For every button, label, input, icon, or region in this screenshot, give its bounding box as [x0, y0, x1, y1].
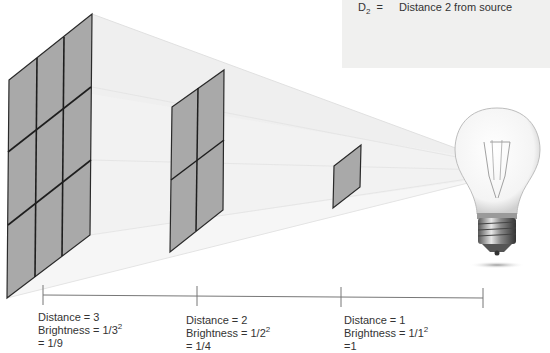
label-distance-1: Distance = 1 Brightness = 1/12 =1 [344, 314, 428, 353]
brightness-result: = 1/4 [186, 340, 270, 353]
brightness-text: Brightness = 1/22 [186, 327, 270, 340]
brightness-text: Brightness = 1/32 [38, 324, 122, 337]
distance-text: Distance = 2 [186, 314, 270, 327]
brightness-result: =1 [344, 340, 428, 353]
label-distance-2: Distance = 2 Brightness = 1/22 = 1/4 [186, 314, 270, 353]
brightness-text: Brightness = 1/12 [344, 327, 428, 340]
distance-text: Distance = 1 [344, 314, 428, 327]
light-bulb-icon [455, 108, 540, 269]
distance-text: Distance = 3 [38, 311, 122, 324]
label-distance-3: Distance = 3 Brightness = 1/32 = 1/9 [38, 311, 122, 350]
distance-ruler [43, 285, 483, 308]
inverse-square-diagram [0, 0, 550, 353]
brightness-result: = 1/9 [38, 337, 122, 350]
